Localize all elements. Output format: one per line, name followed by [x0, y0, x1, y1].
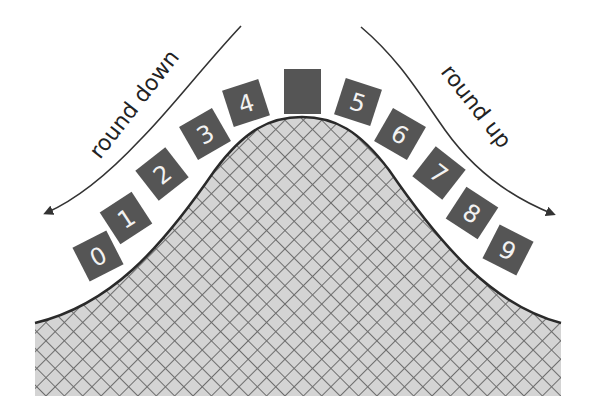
rounding-diagram: 0123456789 round down round up — [0, 0, 594, 418]
digit-box-3: 3 — [179, 108, 231, 160]
digit-box-7: 7 — [412, 146, 465, 199]
round-up-label: round up — [436, 60, 517, 153]
digit-box-4: 4 — [222, 79, 270, 127]
digit-box-9: 9 — [482, 224, 533, 275]
digit-box-5: 5 — [334, 78, 382, 126]
digit-box-2: 2 — [135, 147, 188, 200]
digit-box-6: 6 — [374, 108, 426, 160]
digit-box-0: 0 — [72, 230, 123, 281]
digit-box-8: 8 — [446, 187, 499, 240]
center-box — [284, 69, 321, 114]
